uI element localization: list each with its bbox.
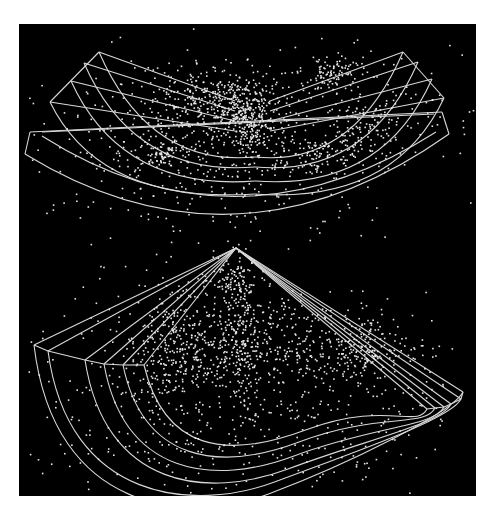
galaxy-point — [255, 379, 257, 381]
galaxy-point — [212, 137, 214, 139]
galaxy-point — [362, 479, 364, 481]
galaxy-point — [371, 324, 373, 326]
galaxy-point — [211, 106, 213, 108]
galaxy-point — [321, 378, 323, 380]
galaxy-point — [192, 382, 194, 384]
galaxy-point — [351, 90, 353, 92]
galaxy-point — [201, 98, 203, 100]
galaxy-point — [227, 132, 229, 134]
galaxy-point — [217, 93, 219, 95]
galaxy-point — [200, 73, 202, 75]
galaxy-point — [237, 142, 239, 144]
galaxy-point — [137, 452, 139, 454]
galaxy-point — [178, 172, 180, 174]
galaxy-point — [245, 115, 247, 117]
galaxy-point — [318, 466, 320, 468]
galaxy-point — [172, 390, 174, 392]
galaxy-point — [262, 90, 264, 92]
galaxy-point — [147, 336, 149, 338]
galaxy-point — [302, 472, 304, 474]
galaxy-point — [138, 409, 140, 411]
galaxy-point — [217, 152, 219, 154]
galaxy-point — [336, 339, 338, 341]
galaxy-point — [317, 314, 319, 316]
galaxy-point — [145, 70, 147, 72]
galaxy-point — [302, 85, 304, 87]
galaxy-point — [317, 87, 319, 89]
galaxy-point — [207, 422, 209, 424]
galaxy-point — [237, 328, 239, 330]
galaxy-point — [391, 119, 393, 121]
galaxy-point — [252, 350, 254, 352]
galaxy-point — [117, 440, 119, 442]
galaxy-point — [395, 334, 397, 336]
galaxy-point — [464, 134, 466, 136]
galaxy-point — [237, 371, 239, 373]
galaxy-point — [367, 349, 369, 351]
galaxy-point — [199, 110, 201, 112]
galaxy-point — [342, 75, 344, 77]
galaxy-point — [225, 134, 227, 136]
galaxy-point — [380, 357, 382, 359]
galaxy-point — [143, 350, 145, 352]
galaxy-point — [204, 355, 206, 357]
galaxy-point — [234, 330, 236, 332]
galaxy-point — [197, 360, 199, 362]
galaxy-point — [107, 128, 109, 130]
galaxy-point — [375, 359, 377, 361]
galaxy-point — [329, 331, 331, 333]
galaxy-point — [367, 72, 369, 74]
galaxy-point — [196, 85, 198, 87]
galaxy-point — [312, 314, 314, 316]
galaxy-point — [326, 73, 328, 75]
galaxy-point — [171, 292, 173, 294]
galaxy-point — [285, 72, 287, 74]
galaxy-point — [109, 375, 111, 377]
galaxy-point — [384, 112, 386, 114]
galaxy-point — [336, 84, 338, 86]
galaxy-point — [118, 296, 120, 298]
galaxy-point — [394, 340, 396, 342]
galaxy-point — [317, 228, 319, 230]
galaxy-point — [358, 100, 360, 102]
galaxy-point — [266, 90, 268, 92]
galaxy-point — [268, 140, 270, 142]
galaxy-point — [277, 351, 279, 353]
galaxy-point — [239, 273, 241, 275]
galaxy-point — [339, 364, 341, 366]
galaxy-point — [282, 317, 284, 319]
galaxy-point — [250, 136, 252, 138]
galaxy-point — [240, 268, 242, 270]
galaxy-point — [469, 111, 471, 113]
galaxy-point — [114, 402, 116, 404]
galaxy-point — [178, 285, 180, 287]
galaxy-point — [204, 331, 206, 333]
galaxy-point — [228, 319, 230, 321]
galaxy-point — [363, 114, 365, 116]
galaxy-point — [341, 142, 343, 144]
galaxy-point — [254, 332, 256, 334]
galaxy-point — [350, 377, 352, 379]
galaxy-point — [198, 438, 200, 440]
galaxy-point — [285, 137, 287, 139]
galaxy-point — [199, 349, 201, 351]
galaxy-point — [330, 409, 332, 411]
galaxy-point — [232, 293, 234, 295]
galaxy-point — [148, 161, 150, 163]
galaxy-point — [347, 127, 349, 129]
galaxy-point — [407, 125, 409, 127]
galaxy-point — [244, 293, 246, 295]
galaxy-point — [230, 74, 232, 76]
galaxy-point — [329, 291, 331, 293]
galaxy-point — [244, 163, 246, 165]
galaxy-point — [195, 90, 197, 92]
galaxy-point — [227, 241, 229, 243]
galaxy-point — [202, 339, 204, 341]
galaxy-point — [176, 409, 178, 411]
galaxy-point — [155, 153, 157, 155]
galaxy-point — [83, 286, 85, 288]
galaxy-point — [179, 230, 181, 232]
galaxy-point — [194, 107, 196, 109]
galaxy-point — [344, 162, 346, 164]
galaxy-point — [242, 89, 244, 91]
